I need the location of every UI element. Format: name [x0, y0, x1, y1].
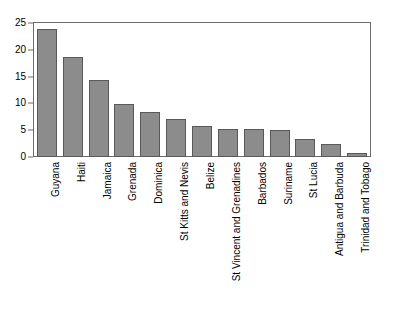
x-axis-labels: GuyanaHaitiJamaicaGrenadaDominicaSt Kitt…: [34, 158, 370, 318]
bar: [218, 129, 238, 157]
bar: [114, 104, 134, 157]
y-tick: 25: [0, 18, 26, 28]
bar: [244, 129, 264, 157]
y-tick-label: 20: [15, 45, 26, 55]
x-axis-tick-label: Jamaica: [103, 162, 113, 199]
bar: [89, 80, 109, 157]
x-axis-tick-label: Guyana: [51, 162, 61, 197]
x-axis-tick-label: St Lucia: [309, 162, 319, 198]
y-tick: 20: [0, 45, 26, 55]
y-tick-label: 5: [20, 125, 26, 135]
x-axis-tick-label: Antigua and Barbuda: [335, 162, 345, 256]
bar: [63, 57, 83, 157]
y-tick: 0: [0, 152, 26, 162]
y-tick-label: 25: [15, 18, 26, 28]
y-tick-label: 0: [20, 152, 26, 162]
x-axis-tick-label: Suriname: [284, 162, 294, 205]
x-axis-tick-label: Trinidad and Tobago: [361, 162, 371, 253]
bar: [140, 112, 160, 157]
x-axis-tick-label: St Vincent and Grenadines: [232, 162, 242, 281]
y-tick-label: 15: [15, 72, 26, 82]
bar: [37, 29, 57, 157]
y-tick: 5: [0, 125, 26, 135]
x-axis-tick-label: St Kitts and Nevis: [180, 162, 190, 241]
bar: [166, 119, 186, 157]
x-axis-tick-label: Grenada: [128, 162, 138, 201]
bar-chart: 0510152025 GuyanaHaitiJamaicaGrenadaDomi…: [0, 0, 405, 321]
x-axis-tick-label: Barbados: [258, 162, 268, 205]
bar: [321, 144, 341, 157]
y-tick-label: 10: [15, 98, 26, 108]
bar: [295, 139, 315, 157]
bar-series: [34, 23, 370, 157]
x-axis-tick-label: Haiti: [77, 162, 87, 182]
bar: [347, 153, 367, 157]
bar: [192, 126, 212, 157]
y-tick: 10: [0, 98, 26, 108]
y-tick: 15: [0, 72, 26, 82]
x-axis-tick-label: Belize: [206, 162, 216, 189]
bar: [270, 130, 290, 157]
x-axis-tick-label: Dominica: [154, 162, 164, 204]
